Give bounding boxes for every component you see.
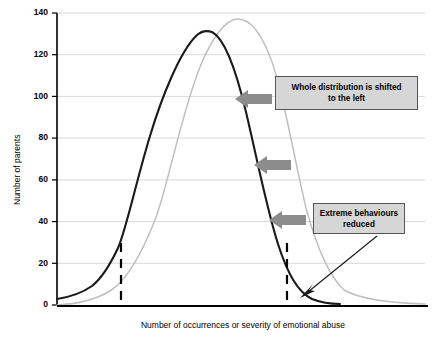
callout-shift-text: Whole distribution is shifted to the lef… — [280, 82, 413, 104]
callout-extreme-line2: reduced — [343, 220, 375, 229]
y-axis-title: Number of parents — [12, 135, 22, 205]
distribution-chart: 140 120 100 80 60 40 20 0 Number of pare… — [0, 0, 435, 337]
y-tick-label-120: 120 — [34, 49, 48, 59]
y-tick-label-0: 0 — [43, 299, 48, 309]
y-tick-label-60: 60 — [39, 174, 49, 184]
y-tick-label-40: 40 — [39, 216, 49, 226]
callout-shift-line1: Whole distribution is shifted — [291, 83, 401, 92]
callout-extreme-line1: Extreme behaviours — [320, 209, 398, 218]
callout-whole-distribution-shifted: Whole distribution is shifted to the lef… — [275, 76, 418, 110]
extreme-pointer — [300, 236, 377, 298]
y-tick-label-100: 100 — [34, 91, 48, 101]
threshold-markers — [121, 243, 287, 306]
pointer-line — [303, 236, 377, 296]
y-tick-label-20: 20 — [39, 258, 49, 268]
callout-extreme-text: Extreme behaviours reduced — [318, 208, 400, 230]
x-axis-title: Number of occurrences or severity of emo… — [141, 320, 345, 330]
y-tick-label-80: 80 — [39, 132, 49, 142]
y-tick-label-140: 140 — [34, 7, 48, 17]
callout-extreme-behaviours-reduced: Extreme behaviours reduced — [313, 203, 405, 234]
y-axis: 140 120 100 80 60 40 20 0 — [34, 7, 57, 309]
x-axis: Number of occurrences or severity of emo… — [57, 306, 428, 330]
curve-before-intervention — [57, 19, 425, 305]
callout-shift-line2: to the left — [328, 94, 365, 103]
shift-arrow-bottom — [269, 211, 306, 229]
arrow-left-icon — [269, 211, 306, 229]
chart-container: 140 120 100 80 60 40 20 0 Number of pare… — [0, 0, 435, 337]
